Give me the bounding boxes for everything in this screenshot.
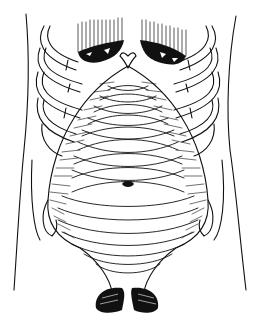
muscle-cut-right — [140, 40, 186, 64]
pubic-cut-right — [131, 288, 158, 313]
torso-outline-left — [14, 14, 28, 290]
pubic-cut-left — [96, 288, 125, 313]
abdominal-sheath-outline — [48, 66, 208, 292]
abdominal-wall-drawing — [0, 0, 255, 326]
torso-outline-right — [228, 16, 246, 290]
anatomical-illustration — [0, 0, 255, 326]
muscle-cut-left — [78, 40, 124, 63]
lower-fibers — [58, 196, 198, 273]
fiber-lattice — [72, 86, 184, 193]
ribs-right — [174, 26, 220, 156]
ribs-left — [36, 26, 82, 156]
